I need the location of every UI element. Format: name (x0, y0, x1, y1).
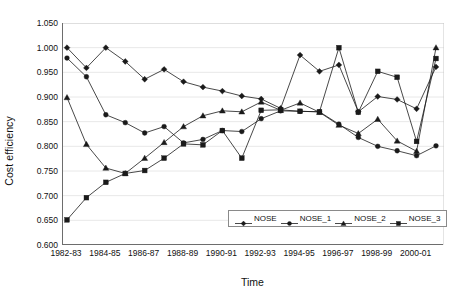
data-point (434, 56, 439, 61)
series-nose_2 (64, 45, 439, 176)
legend-marker-square-icon (390, 214, 407, 223)
legend-marker-triangle-icon (335, 214, 352, 223)
x-tick-label: 1990-91 (206, 248, 237, 258)
y-tick-label: 0.700 (20, 191, 58, 201)
data-point (181, 124, 187, 129)
y-tick-label: 0.650 (20, 215, 58, 225)
chart-legend: NOSENOSE_1NOSE_2NOSE_3 (228, 210, 447, 227)
y-tick-label: 1.050 (20, 18, 58, 28)
data-point (395, 75, 400, 80)
x-axis-tick-labels: 1982-831984-851986-871988-891990-911992-… (62, 248, 443, 262)
legend-label: NOSE_2 (354, 214, 386, 223)
y-tick-label: 0.750 (20, 166, 58, 176)
data-point (181, 141, 186, 146)
data-point (336, 45, 341, 50)
x-tick-label: 1996-97 (322, 248, 353, 258)
data-point (259, 108, 264, 113)
cost-efficiency-line-chart: Cost efficiency 1.0501.0000.9500.9000.85… (0, 0, 460, 302)
data-point (123, 171, 128, 176)
series-line (67, 48, 436, 112)
data-point (298, 109, 303, 114)
y-tick-label: 0.850 (20, 117, 58, 127)
legend-label: NOSE_1 (300, 214, 332, 223)
legend-entry-nose: NOSE (235, 214, 277, 223)
legend-label: NOSE (254, 214, 277, 223)
data-point (375, 144, 380, 149)
x-tick-label: 1994-95 (283, 248, 314, 258)
series-line (67, 48, 436, 220)
data-point (414, 106, 420, 112)
data-point (220, 128, 225, 133)
data-point (219, 88, 225, 94)
data-point (201, 137, 206, 142)
data-point (414, 153, 419, 158)
y-tick-label: 0.950 (20, 67, 58, 77)
y-tick-label: 0.900 (20, 92, 58, 102)
data-point (201, 142, 206, 147)
data-point (181, 79, 187, 85)
data-point (278, 107, 283, 112)
data-point (239, 129, 244, 134)
data-point (336, 62, 342, 68)
data-point (219, 108, 225, 113)
legend-entry-nose_3: NOSE_3 (390, 214, 441, 223)
x-tick-label: 1992-93 (245, 248, 276, 258)
data-point (83, 141, 89, 146)
data-point (84, 74, 89, 79)
y-tick-label: 0.800 (20, 141, 58, 151)
legend-marker-diamond-icon (235, 214, 252, 223)
data-point (142, 131, 147, 136)
legend-label: NOSE_3 (409, 214, 441, 223)
data-point (375, 69, 380, 74)
x-tick-label: 1986-87 (128, 248, 159, 258)
data-point (317, 109, 322, 114)
y-tick-label: 1.000 (20, 43, 58, 53)
data-point (375, 116, 381, 121)
legend-entry-nose_2: NOSE_2 (335, 214, 386, 223)
data-point (123, 120, 128, 125)
data-point (142, 168, 147, 173)
data-point (395, 148, 400, 153)
x-tick-label: 2000-01 (400, 248, 431, 258)
data-point (84, 195, 89, 200)
legend-marker-circle-icon (281, 214, 298, 223)
x-axis-title: Time (62, 276, 443, 288)
data-point (434, 143, 439, 148)
x-tick-label: 1988-89 (167, 248, 198, 258)
data-point (161, 66, 167, 72)
data-point (65, 56, 70, 61)
data-point (200, 84, 206, 90)
data-point (239, 93, 245, 99)
data-point (414, 148, 420, 153)
legend-entry-nose_1: NOSE_1 (281, 214, 332, 223)
data-point (414, 139, 419, 144)
data-point (65, 217, 70, 222)
data-point (103, 112, 108, 117)
series-line (67, 48, 436, 174)
data-point (356, 110, 361, 115)
data-point (162, 124, 167, 129)
x-tick-label: 1998-99 (361, 248, 392, 258)
data-point (103, 180, 108, 185)
x-tick-label: 1982-83 (50, 248, 81, 258)
data-point (259, 116, 264, 121)
data-point (355, 131, 361, 136)
data-point (297, 100, 303, 105)
data-point (162, 156, 167, 161)
data-point (239, 156, 244, 161)
series-nose (64, 45, 439, 115)
x-tick-label: 1984-85 (89, 248, 120, 258)
